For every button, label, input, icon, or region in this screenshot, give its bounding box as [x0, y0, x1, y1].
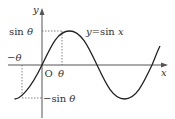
- x-axis-label: x: [161, 67, 167, 78]
- neg-sin-theta-label: −sin θ: [43, 93, 75, 104]
- theta-label: θ: [58, 68, 64, 79]
- sin-theta-label: sin θ: [9, 26, 33, 37]
- neg-theta-label: −θ: [7, 52, 21, 63]
- origin-label: O: [45, 68, 53, 79]
- curve-label: y=sin x: [85, 26, 124, 37]
- y-axis-label: y: [32, 4, 39, 15]
- sine-graph: y x O y=sin x sin θ θ −θ −sin θ: [0, 0, 175, 119]
- y-axis-arrow-icon: [40, 8, 45, 15]
